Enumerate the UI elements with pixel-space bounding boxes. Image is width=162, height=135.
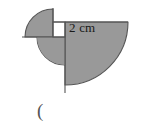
left-lower-filler-shape — [37, 37, 65, 65]
dimension-label-2cm: 2 cm — [69, 21, 95, 35]
upper-left-quarter-disc-shape — [25, 9, 53, 37]
unshaded-square-notch — [53, 22, 65, 37]
answer-parenthesis: ( — [37, 101, 43, 121]
